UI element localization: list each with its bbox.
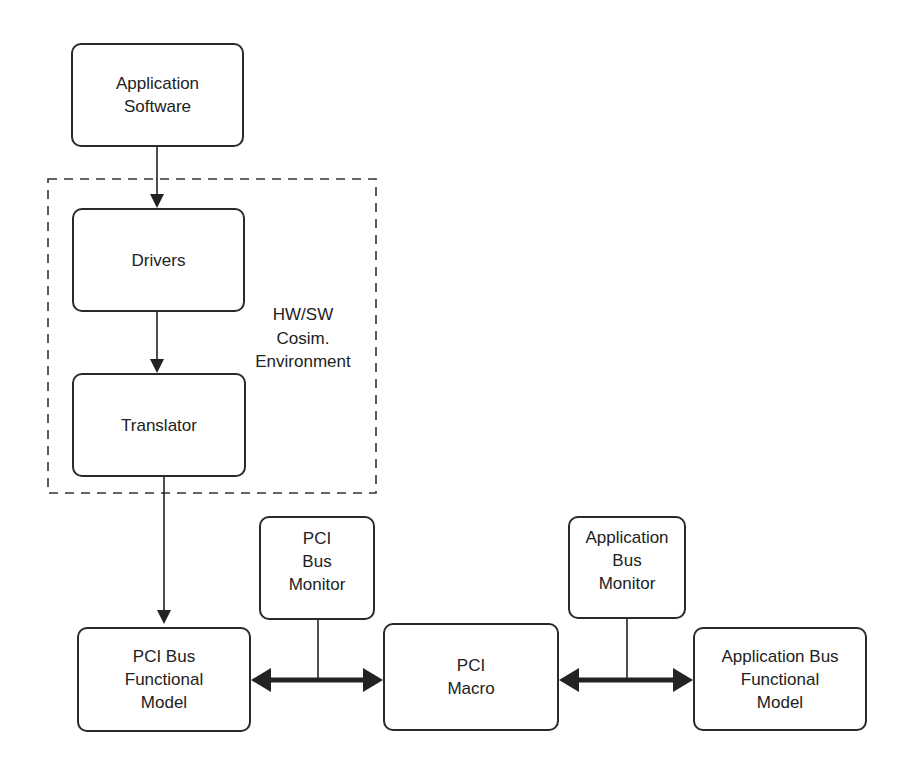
arrowhead-icon xyxy=(157,610,171,624)
edge-drivers-to-translator xyxy=(150,312,164,373)
node-label: Translator xyxy=(121,414,197,437)
node-label: Application Software xyxy=(116,72,199,118)
node-label: Drivers xyxy=(132,249,186,272)
edge-translator-to-pci-bfm xyxy=(157,477,171,624)
node-pci-bus-functional-model: PCI Bus Functional Model xyxy=(77,627,251,732)
right-arrowhead-icon xyxy=(363,668,383,692)
edge-app-software-to-drivers xyxy=(150,147,164,208)
node-pci-bus-monitor: PCI Bus Monitor xyxy=(259,516,375,620)
application-bus-connector xyxy=(559,619,693,692)
node-application-software: Application Software xyxy=(71,43,244,147)
node-label: PCI Bus Functional Model xyxy=(125,645,203,714)
node-label: Application Bus Monitor xyxy=(585,526,668,595)
cosim-environment-label: HW/SW Cosim. Environment xyxy=(242,303,364,374)
node-drivers: Drivers xyxy=(72,208,245,312)
node-label: PCI Bus Monitor xyxy=(289,527,346,596)
node-application-bus-monitor: Application Bus Monitor xyxy=(568,516,686,619)
arrowhead-icon xyxy=(150,359,164,373)
left-arrowhead-icon xyxy=(251,668,271,692)
node-label: PCI Macro xyxy=(447,654,494,700)
node-translator: Translator xyxy=(72,373,246,477)
arrowhead-icon xyxy=(150,194,164,208)
right-arrowhead-icon xyxy=(673,668,693,692)
left-arrowhead-icon xyxy=(559,668,579,692)
node-label: Application Bus Functional Model xyxy=(721,645,838,714)
node-pci-macro: PCI Macro xyxy=(383,623,559,731)
pci-bus-connector xyxy=(251,620,383,692)
node-application-bus-functional-model: Application Bus Functional Model xyxy=(693,627,867,731)
